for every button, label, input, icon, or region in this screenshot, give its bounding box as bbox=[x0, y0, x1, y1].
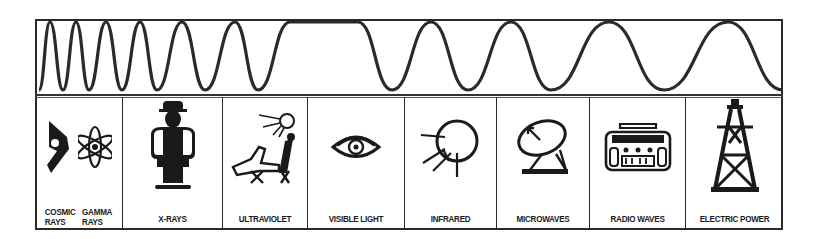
x-ray-person-icon bbox=[143, 97, 203, 197]
gamma-rays-label: GAMMARAYS bbox=[82, 207, 112, 227]
satellite-dish-icon bbox=[512, 114, 574, 180]
cell-x-rays: X-RAYS bbox=[123, 97, 223, 230]
cell-microwaves: MICROWAVES bbox=[497, 97, 590, 230]
sine-wave bbox=[39, 22, 783, 90]
cell-electric-power: ELECTRIC POWER bbox=[686, 97, 783, 230]
cosmic-ray-icon bbox=[45, 119, 71, 175]
spectrum-cells: COSMICRAYS GAMMARAYS X-RAYS bbox=[35, 97, 783, 230]
sunbather-icon bbox=[229, 109, 301, 185]
atom-icon bbox=[78, 122, 112, 172]
wave-band bbox=[35, 19, 783, 97]
electromagnetic-spectrum-diagram: COSMICRAYS GAMMARAYS X-RAYS bbox=[0, 0, 822, 239]
cosmic-rays-label: COSMICRAYS bbox=[45, 207, 76, 227]
microwaves-label: MICROWAVES bbox=[504, 213, 582, 224]
cell-ultraviolet: ULTRAVIOLET bbox=[223, 97, 308, 230]
heat-radiating-circle-icon bbox=[415, 111, 487, 183]
visible-light-label: VISIBLE LIGHT bbox=[315, 213, 397, 224]
ultraviolet-label: ULTRAVIOLET bbox=[229, 213, 300, 224]
infrared-label: INFRARED bbox=[412, 213, 489, 224]
electric-power-label: ELECTRIC POWER bbox=[693, 213, 775, 224]
power-tower-icon bbox=[707, 97, 763, 197]
cosmic-gamma-labels: COSMICRAYS GAMMARAYS bbox=[42, 207, 116, 227]
radio-icon bbox=[604, 122, 672, 172]
cell-infrared: INFRARED bbox=[405, 97, 497, 230]
radio-waves-label: RADIO WAVES bbox=[597, 213, 678, 224]
cell-radio-waves: RADIO WAVES bbox=[590, 97, 686, 230]
cell-visible-light: VISIBLE LIGHT bbox=[308, 97, 405, 230]
eye-icon bbox=[331, 132, 381, 162]
x-rays-label: X-RAYS bbox=[130, 213, 214, 224]
cell-cosmic-gamma: COSMICRAYS GAMMARAYS bbox=[35, 97, 123, 230]
